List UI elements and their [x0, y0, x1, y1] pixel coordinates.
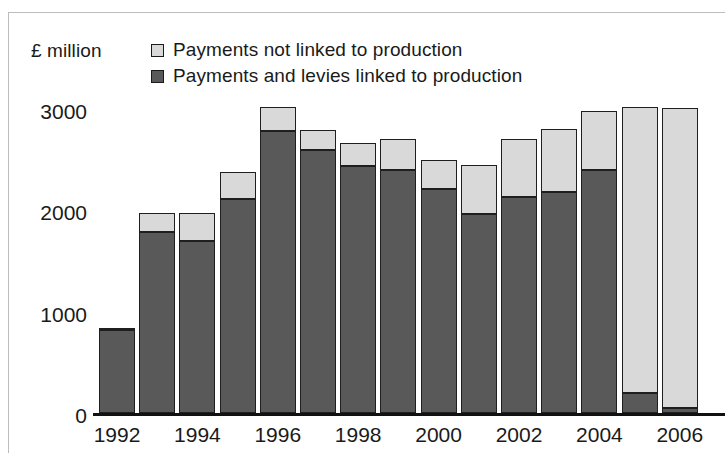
bar-column [581, 111, 617, 413]
bar-segment-not-linked [179, 213, 215, 240]
bar-column [421, 160, 457, 413]
x-axis-tick-1998: 1998 [335, 423, 382, 447]
bar-segment-not-linked [461, 165, 497, 215]
x-axis-tick-2006: 2006 [656, 423, 703, 447]
bar-segment-not-linked [622, 107, 658, 393]
x-axis-tick-1994: 1994 [174, 423, 221, 447]
bar-segment-not-linked [541, 129, 577, 192]
bar-column [340, 143, 376, 413]
x-axis-tick-2004: 2004 [576, 423, 623, 447]
bar-column [622, 107, 658, 413]
bar-segment-linked [501, 197, 537, 413]
legend-label-not-linked: Payments not linked to production [173, 39, 463, 61]
bar-segment-not-linked [340, 143, 376, 165]
legend-item-not-linked: Payments not linked to production [151, 37, 522, 63]
bar-segment-not-linked [421, 160, 457, 189]
x-axis-tick-labels: 19921994199619982000200220042006 [99, 423, 719, 453]
legend-swatch-linked-icon [151, 70, 164, 83]
chart-figure: £ million Payments not linked to product… [8, 12, 725, 453]
bar-series-group [99, 103, 719, 413]
bar-segment-linked [300, 150, 336, 413]
x-axis-baseline [93, 413, 725, 416]
y-axis-tick-2000: 2000 [40, 201, 87, 225]
bar-segment-linked [622, 393, 658, 413]
bar-column [380, 139, 416, 413]
bar-column [220, 172, 256, 413]
legend-label-linked: Payments and levies linked to production [173, 65, 522, 87]
bar-segment-linked [99, 330, 135, 413]
bar-segment-linked [421, 189, 457, 413]
bar-column [99, 328, 135, 413]
bar-segment-linked [541, 192, 577, 413]
chart-legend: Payments not linked to production Paymen… [151, 37, 522, 89]
bar-segment-linked [220, 199, 256, 413]
bar-segment-not-linked [139, 213, 175, 231]
bar-segment-not-linked [380, 139, 416, 169]
bar-column [501, 139, 537, 413]
legend-item-linked: Payments and levies linked to production [151, 63, 522, 89]
bar-segment-not-linked [300, 130, 336, 149]
x-axis-tick-2002: 2002 [496, 423, 543, 447]
bar-column [662, 108, 698, 413]
plot-area: 0100020003000 [99, 103, 719, 416]
x-axis-tick-1992: 1992 [94, 423, 141, 447]
bar-segment-linked [380, 170, 416, 413]
bar-column [179, 213, 215, 413]
x-axis-tick-2000: 2000 [415, 423, 462, 447]
bar-segment-not-linked [581, 111, 617, 170]
bar-segment-not-linked [260, 107, 296, 131]
bar-segment-not-linked [220, 172, 256, 199]
bar-segment-linked [179, 241, 215, 413]
y-axis-tick-3000: 3000 [40, 100, 87, 124]
bar-segment-linked [260, 131, 296, 413]
bar-segment-linked [581, 170, 617, 413]
bar-column [541, 129, 577, 413]
y-axis-tick-0: 0 [75, 404, 87, 428]
bar-segment-linked [139, 232, 175, 413]
bar-column [461, 165, 497, 413]
bar-column [139, 213, 175, 413]
bar-segment-not-linked [501, 139, 537, 197]
y-axis-tick-1000: 1000 [40, 303, 87, 327]
bar-segment-linked [340, 166, 376, 413]
y-axis-unit-label: £ million [31, 40, 102, 62]
bar-segment-linked [461, 214, 497, 413]
x-axis-tick-1996: 1996 [254, 423, 301, 447]
legend-swatch-not-linked-icon [151, 44, 164, 57]
bar-column [300, 130, 336, 413]
bar-column [260, 107, 296, 413]
bar-segment-not-linked [662, 108, 698, 408]
